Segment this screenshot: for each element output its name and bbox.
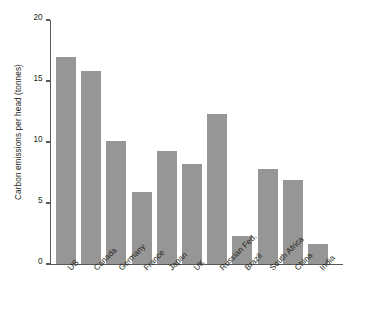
bar-south-africa [258,169,278,264]
bar-us [56,57,76,264]
bar-uk [182,164,202,264]
y-axis-tick-label: 5 [38,196,43,205]
y-axis-title: Carbon emissions per head (tonnes) [10,0,28,264]
plot-area: 05101520 [50,20,350,264]
bar-canada [81,71,101,264]
bar-germany [106,141,126,264]
bars-layer [50,20,350,264]
x-axis-tick-labels: USCanadaGermanyFranceJapanUKRussian Fed.… [50,266,360,321]
y-axis-tick-label: 20 [33,13,42,22]
y-axis-tick-label: 15 [33,74,42,83]
y-axis-tick-label: 10 [33,135,42,144]
y-axis-tick-label: 0 [38,257,43,266]
bar-chart-figure: Carbon emissions per head (tonnes) 05101… [0,0,369,321]
bar-russian-fed [207,114,227,264]
